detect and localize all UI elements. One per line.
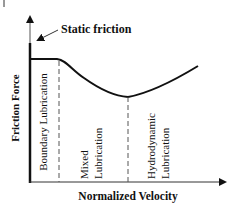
region-label-mixed-line1: Mixed [78,150,90,179]
y-axis-label: Friction Force [9,74,21,141]
stribeck-diagram: Static friction Friction Force Boundary … [0,0,240,215]
x-axis-label: Normalized Velocity [78,190,178,203]
friction-curve [30,59,198,97]
static-friction-pointer [38,30,58,40]
region-label-mixed-line2: Lubrication [92,127,104,179]
static-friction-label: Static friction [61,22,132,36]
region-label-boundary: Boundary Lubrication [37,73,49,171]
region-label-hydrodynamic-line1: Hydrodynamic [145,113,157,179]
region-label-hydrodynamic-line2: Lubrication [159,127,171,179]
